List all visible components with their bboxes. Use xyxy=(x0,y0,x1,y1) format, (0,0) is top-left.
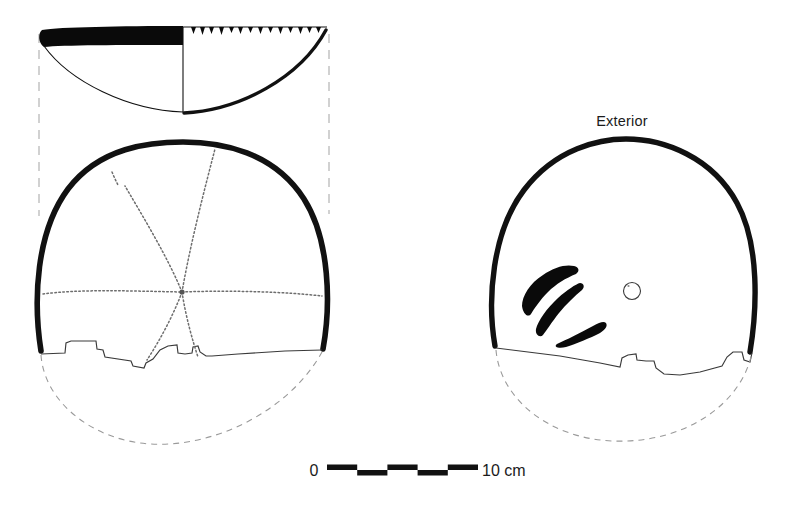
artifact-illustration-plate: Exterior 0 10 cm xyxy=(0,0,802,507)
perforation-highlight xyxy=(627,285,629,287)
incision-convergence-point xyxy=(179,289,184,294)
scale-bar-segment-2-bottom xyxy=(357,470,387,476)
perforation-circle-icon xyxy=(624,283,641,300)
scale-bar-start-label: 0 xyxy=(310,462,319,479)
exterior-label: Exterior xyxy=(596,113,648,129)
scale-bar-segment-3-top xyxy=(387,465,417,471)
scale-bar-segment-1-top xyxy=(327,465,357,471)
page-background xyxy=(0,0,802,507)
figure-canvas: Exterior 0 10 cm xyxy=(0,0,802,507)
scale-bar-segment-5-top xyxy=(448,465,478,471)
scale-bar-end-label: 10 cm xyxy=(482,462,526,479)
scale-bar-segment-4-bottom xyxy=(418,470,448,476)
section-rim-solid-band xyxy=(39,26,183,47)
